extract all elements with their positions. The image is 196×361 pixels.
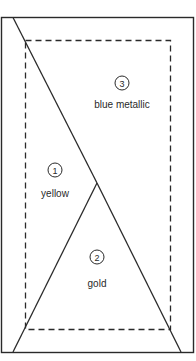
region-3-label: blue metallic (94, 99, 150, 110)
region-3-number: 3 (119, 79, 124, 89)
region-2-number: 2 (94, 253, 99, 263)
region-1-label: yellow (41, 188, 70, 199)
region-2-marker: 2 gold (88, 250, 107, 289)
region-1-number: 1 (52, 166, 57, 176)
region-1-marker: 1 yellow (41, 163, 70, 199)
region-2-label: gold (88, 278, 107, 289)
color-region-diagram: 3 blue metallic 1 yellow 2 gold (0, 0, 196, 361)
triangle-right-side (97, 183, 181, 352)
region-3-marker: 3 blue metallic (94, 76, 150, 110)
